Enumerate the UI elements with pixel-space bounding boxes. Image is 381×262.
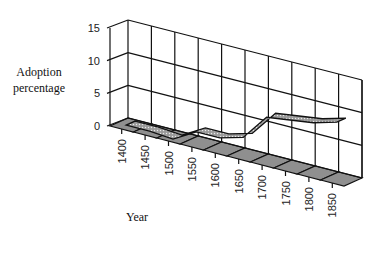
x-tick-label: 1500 [163,151,175,175]
x-tick-label: 1750 [280,181,292,205]
y-tick-label: 10 [88,55,100,67]
x-axis-label: Year [126,210,148,225]
x-tick-label: 1600 [209,163,221,187]
y-axis-label: Adoption percentage [4,64,74,96]
x-tick-label: 1800 [303,187,315,211]
x-tick-label: 1850 [326,193,338,217]
x-tick-label: 1400 [116,139,128,163]
y-tick-label: 15 [88,22,100,34]
chart-3d-ribbon: 051015 140014501500155016001650170017501… [0,0,381,262]
y-tick-label: 0 [94,120,100,132]
x-tick-label: 1700 [256,175,268,199]
x-tick-label: 1550 [186,157,198,181]
y-tick-label: 5 [94,87,100,99]
x-tick-label: 1450 [139,145,151,169]
x-tick-label: 1650 [233,169,245,193]
y-axis-ticks: 051015 [88,22,100,132]
